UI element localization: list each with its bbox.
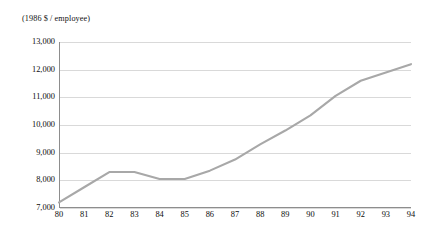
chart-container: (1986 $ / employee) 7,0008,0009,00010,00… bbox=[0, 0, 432, 239]
x-axis-tick-label: 80 bbox=[46, 210, 72, 219]
x-axis-tick-label: 88 bbox=[247, 210, 273, 219]
y-axis-tick-label: 8,000 bbox=[7, 175, 55, 184]
x-axis-tick-label: 94 bbox=[398, 210, 424, 219]
y-axis-tick-label: 9,000 bbox=[7, 148, 55, 157]
x-axis-tick-label: 90 bbox=[297, 210, 323, 219]
x-axis-tick-label: 93 bbox=[373, 210, 399, 219]
x-axis-tick-label: 82 bbox=[96, 210, 122, 219]
x-axis-tick-label: 85 bbox=[172, 210, 198, 219]
x-axis-tick-label: 83 bbox=[121, 210, 147, 219]
x-axis-tick-label: 92 bbox=[348, 210, 374, 219]
y-axis-tick-label: 10,000 bbox=[7, 120, 55, 129]
y-axis-tick-label: 11,000 bbox=[7, 92, 55, 101]
x-axis-tick-label: 87 bbox=[222, 210, 248, 219]
gridline bbox=[60, 208, 411, 209]
series-line-chart bbox=[59, 42, 411, 208]
x-axis-tick-label: 84 bbox=[147, 210, 173, 219]
x-axis-tick-labels: 808182838485868788899091929394 bbox=[59, 210, 411, 228]
x-axis-tick-label: 89 bbox=[272, 210, 298, 219]
x-axis-tick-label: 91 bbox=[323, 210, 349, 219]
x-axis-tick-label: 86 bbox=[197, 210, 223, 219]
plot-area bbox=[59, 42, 411, 208]
y-axis-unit-caption: (1986 $ / employee) bbox=[22, 14, 90, 23]
y-axis-tick-label: 13,000 bbox=[7, 37, 55, 46]
x-axis-tick-label: 81 bbox=[71, 210, 97, 219]
y-axis-tick-labels: 7,0008,0009,00010,00011,00012,00013,000 bbox=[0, 42, 55, 208]
y-axis-tick-label: 12,000 bbox=[7, 65, 55, 74]
series-polyline bbox=[59, 64, 411, 202]
